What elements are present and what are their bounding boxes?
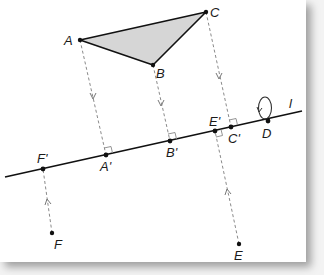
projection-line-e: [215, 131, 239, 244]
point-e: [237, 242, 241, 246]
label-f-prime: F': [37, 151, 48, 166]
label-e: E: [234, 248, 243, 263]
label-a-prime: A': [99, 159, 112, 174]
point-c: [204, 10, 208, 14]
loop-arrow-icon: [257, 107, 262, 112]
point-a-prime: [104, 153, 109, 158]
projection-line-f: [43, 169, 52, 233]
label-f: F: [54, 237, 63, 252]
label-e-prime: E': [209, 114, 221, 129]
label-d: D: [262, 126, 271, 141]
label-a: A: [63, 33, 73, 48]
triangle-abc: [80, 12, 206, 65]
point-b-prime: [168, 139, 173, 144]
line-l: [5, 111, 302, 177]
label-b-prime: B': [166, 145, 178, 160]
point-a: [78, 38, 82, 42]
diagram-card: A B C D E F A' B' C' E' F' l: [0, 0, 306, 262]
label-c-prime: C': [228, 131, 240, 146]
label-line-l: l: [289, 96, 293, 111]
point-f-prime: [41, 167, 46, 172]
projection-line-a: [80, 40, 106, 155]
point-b: [151, 63, 155, 67]
point-f: [50, 231, 54, 235]
label-b: B: [156, 66, 165, 81]
projection-diagram: A B C D E F A' B' C' E' F' l: [0, 0, 324, 275]
point-d: [266, 119, 271, 124]
point-c-prime: [229, 125, 234, 130]
point-e-prime: [213, 129, 218, 134]
fixed-point-loop-icon: [259, 97, 272, 119]
label-c: C: [210, 5, 220, 20]
projection-line-c: [206, 12, 231, 127]
